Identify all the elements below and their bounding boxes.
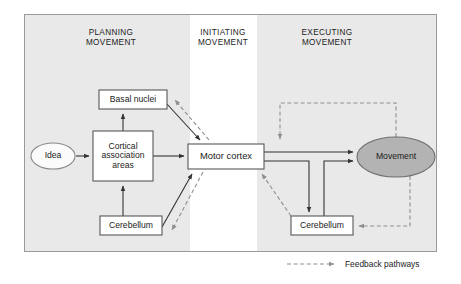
legend-feedback-pathways-text: Feedback pathways — [345, 259, 420, 269]
phase-title-executing-line2: MOVEMENT — [302, 38, 352, 47]
phase-title-planning-line2: MOVEMENT — [86, 38, 136, 47]
phase-title-initiating-line2: MOVEMENT — [198, 38, 248, 47]
node-idea-shape[interactable] — [31, 143, 75, 169]
phase-title-initiating: INITIATING MOVEMENT — [173, 28, 273, 49]
node-cerebellum-right-shape[interactable] — [291, 216, 353, 235]
node-cerebellum-left-shape[interactable] — [100, 216, 162, 235]
phase-title-planning-line1: PLANNING — [89, 28, 134, 37]
phase-title-initiating-line1: INITIATING — [200, 28, 246, 37]
node-basal-nuclei-shape[interactable] — [99, 90, 167, 109]
phase-title-executing-line1: EXECUTING — [302, 28, 353, 37]
node-movement-shape[interactable] — [357, 137, 435, 177]
initiating-phase-highlight-band — [190, 15, 257, 251]
phase-title-planning: PLANNING MOVEMENT — [61, 28, 161, 49]
node-cortical-association-areas-shape[interactable] — [93, 131, 153, 181]
node-motor-cortex-shape[interactable] — [188, 144, 264, 169]
legend-feedback-pathways-label: Feedback pathways — [345, 259, 420, 269]
phase-title-executing: EXECUTING MOVEMENT — [277, 28, 377, 49]
motor-control-pathway-diagram: PLANNING MOVEMENT INITIATING MOVEMENT EX… — [0, 0, 461, 284]
